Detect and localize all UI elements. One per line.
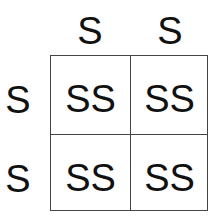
cell-r1c2: SS xyxy=(130,80,209,118)
cell-r2c1: SS xyxy=(51,159,130,197)
cell-r1c1: SS xyxy=(51,80,130,118)
left-allele-2: S xyxy=(0,160,38,198)
punnett-grid: SS SS SS SS xyxy=(50,55,208,211)
cell-r2c2: SS xyxy=(130,159,209,197)
top-allele-2: S xyxy=(150,12,190,50)
top-allele-1: S xyxy=(70,12,110,50)
grid-divider-horizontal xyxy=(51,134,207,135)
left-allele-1: S xyxy=(0,81,38,119)
